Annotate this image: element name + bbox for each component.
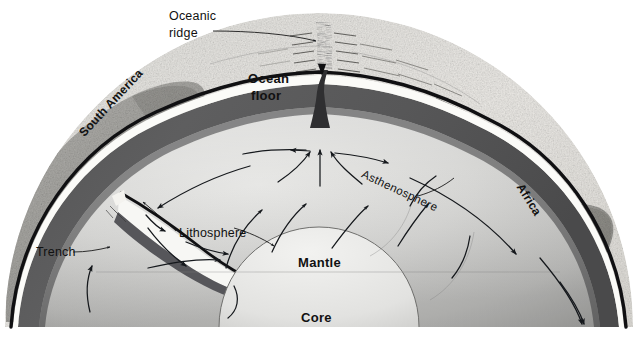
diagram-stage: Oceanic ridge Ocean floor South America …	[0, 0, 638, 341]
label-lithosphere: Lithosphere	[179, 226, 247, 240]
label-ocean-floor-line2: floor	[251, 88, 281, 103]
label-ocean-floor-line1: Ocean	[248, 71, 289, 86]
label-oceanic-ridge-line2: ridge	[169, 26, 198, 40]
label-core: Core	[301, 310, 332, 325]
label-oceanic-ridge-line1: Oceanic	[169, 9, 216, 23]
label-mantle: Mantle	[298, 255, 341, 270]
earth-cutaway-figure: Oceanic ridge Ocean floor South America …	[0, 0, 638, 341]
label-trench: Trench	[36, 245, 76, 259]
